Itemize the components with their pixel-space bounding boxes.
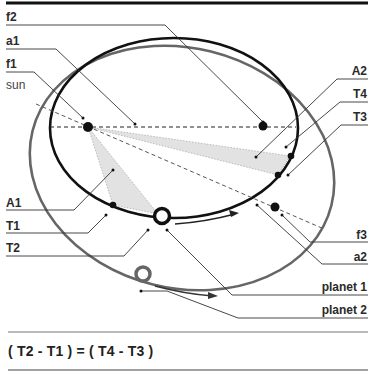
label-f3: f3 bbox=[356, 229, 367, 241]
planet-1-icon bbox=[155, 209, 170, 224]
planet-2-icon bbox=[136, 267, 150, 281]
equation-text: ( T2 - T1 ) = ( T4 - T3 ) bbox=[8, 343, 153, 359]
position-T4-icon bbox=[288, 153, 295, 160]
T3-marker bbox=[287, 174, 290, 177]
orbit-planet-2 bbox=[4, 14, 361, 321]
A1-marker bbox=[112, 169, 115, 172]
sun-icon bbox=[83, 122, 93, 132]
label-planet-2: planet 2 bbox=[322, 304, 367, 316]
a1-marker bbox=[134, 123, 137, 126]
planet-2-marker bbox=[140, 290, 143, 293]
label-a1: a1 bbox=[6, 35, 19, 47]
T2-marker bbox=[147, 229, 150, 232]
f3-marker bbox=[281, 214, 284, 217]
label-planet-1: planet 1 bbox=[322, 281, 367, 293]
f1-marker bbox=[82, 117, 85, 120]
label-f1: f1 bbox=[6, 58, 17, 70]
label-T4: T4 bbox=[353, 88, 367, 100]
label-T1: T1 bbox=[6, 220, 20, 232]
T4-marker bbox=[285, 146, 288, 149]
label-T3: T3 bbox=[353, 111, 367, 123]
arrowhead-icon bbox=[208, 292, 218, 299]
focus-f3-icon bbox=[271, 203, 280, 212]
planet-1-marker bbox=[166, 229, 169, 232]
label-f2: f2 bbox=[6, 11, 17, 23]
f2-marker bbox=[262, 121, 265, 124]
T1-marker bbox=[105, 214, 108, 217]
label-A2: A2 bbox=[352, 65, 367, 77]
A2-marker bbox=[255, 156, 258, 159]
position-T1-icon bbox=[110, 202, 117, 209]
label-A1: A1 bbox=[6, 197, 21, 209]
label-T2: T2 bbox=[6, 242, 20, 254]
leader-lines-left bbox=[6, 25, 263, 256]
label-sun: sun bbox=[6, 79, 25, 91]
a2-marker bbox=[256, 204, 259, 207]
kepler-diagram bbox=[0, 0, 371, 381]
label-a2: a2 bbox=[354, 251, 367, 263]
position-T3-icon bbox=[275, 172, 282, 179]
